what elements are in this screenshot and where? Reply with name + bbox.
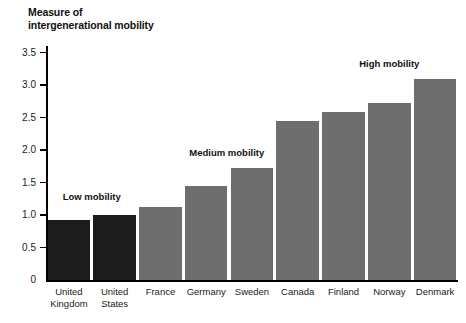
y-tick-mark (40, 149, 46, 151)
y-tick-mark (40, 214, 46, 216)
bar (276, 121, 319, 280)
y-tick-mark (40, 52, 46, 54)
x-axis-label: France (138, 286, 184, 298)
y-tick-label: 1.0 (2, 209, 36, 220)
bar-chart: Measure of intergenerational mobility 00… (0, 0, 466, 323)
y-tick-label: 2.0 (2, 144, 36, 155)
y-tick-label: 3.5 (2, 46, 36, 57)
y-tick-label: 1.5 (2, 176, 36, 187)
y-tick-mark (40, 247, 46, 249)
y-axis-title: Measure of intergenerational mobility (28, 6, 154, 32)
bar (322, 112, 365, 280)
bar (368, 103, 411, 280)
bar (93, 215, 136, 280)
bar (414, 79, 457, 281)
x-axis-label: Finland (321, 286, 367, 298)
bar (139, 207, 182, 280)
y-tick-label: 0 (2, 274, 36, 285)
bar (48, 220, 91, 280)
x-axis-label: Sweden (229, 286, 275, 298)
x-axis-label: United States (92, 286, 138, 309)
x-axis-label: Canada (275, 286, 321, 298)
y-tick-label: 2.5 (2, 111, 36, 122)
x-axis-label: United Kingdom (46, 286, 92, 309)
bar (185, 186, 228, 280)
x-axis-label: Denmark (412, 286, 458, 298)
y-tick-mark (40, 84, 46, 86)
mobility-annotation: Low mobility (63, 191, 121, 202)
y-tick-label: 3.0 (2, 79, 36, 90)
mobility-annotation: High mobility (359, 58, 419, 69)
x-axis-label: Germany (183, 286, 229, 298)
x-axis-line (46, 280, 458, 282)
y-tick-mark (40, 117, 46, 119)
y-tick-label: 0.5 (2, 241, 36, 252)
mobility-annotation: Medium mobility (189, 147, 264, 158)
y-tick-mark (40, 182, 46, 184)
x-axis-label: Norway (366, 286, 412, 298)
bar (231, 168, 274, 280)
